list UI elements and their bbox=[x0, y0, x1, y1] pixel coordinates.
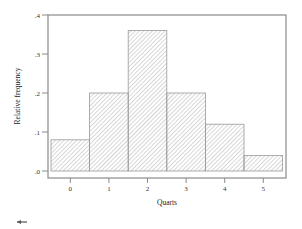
y-tick-label: .3 bbox=[35, 51, 41, 59]
y-axis: .0.1.2.3.4 bbox=[35, 12, 48, 176]
bar-4 bbox=[205, 124, 244, 171]
bars bbox=[51, 31, 283, 171]
x-axis-title: Quarts bbox=[157, 198, 177, 207]
x-tick-label: 5 bbox=[262, 185, 266, 193]
x-axis: 012345 bbox=[69, 178, 266, 193]
x-tick-label: 2 bbox=[146, 185, 150, 193]
y-tick-label: .1 bbox=[35, 129, 41, 137]
x-tick-label: 1 bbox=[107, 185, 111, 193]
x-tick-label: 3 bbox=[184, 185, 188, 193]
y-tick-label: .4 bbox=[35, 12, 41, 20]
x-tick-label: 4 bbox=[223, 185, 227, 193]
histogram-chart: .0.1.2.3.4 012345 Relative frequency Qua… bbox=[0, 0, 302, 229]
bar-2 bbox=[128, 31, 167, 171]
bar-0 bbox=[51, 140, 90, 171]
bar-1 bbox=[90, 93, 129, 171]
x-tick-label: 0 bbox=[69, 185, 73, 193]
y-axis-title: Relative frequency bbox=[13, 67, 22, 124]
y-tick-label: .2 bbox=[35, 90, 41, 98]
bar-5 bbox=[244, 155, 283, 171]
y-tick-label: .0 bbox=[35, 168, 41, 176]
stray-arrow-mark bbox=[17, 220, 27, 224]
bar-3 bbox=[167, 93, 206, 171]
